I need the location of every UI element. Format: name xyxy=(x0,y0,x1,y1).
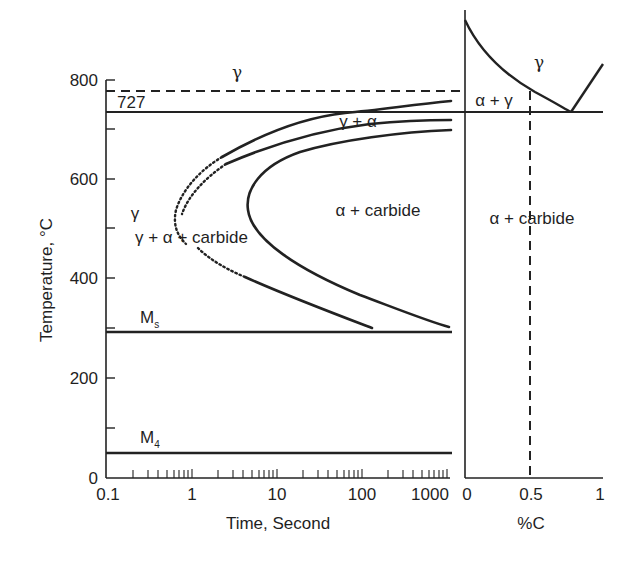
phase-x-tick-0.5: 0.5 xyxy=(519,485,543,504)
x-tick-0.1: 0.1 xyxy=(96,485,120,504)
phase-x-tick-1: 1 xyxy=(595,485,604,504)
label-gamma-top: γ xyxy=(232,62,242,82)
finish-c-curve xyxy=(248,130,451,327)
y-tick-600: 600 xyxy=(70,170,98,189)
ttt-x-axis-title: Time, Second xyxy=(226,514,330,533)
label-ms: Ms xyxy=(140,308,159,330)
ttt-y-axis-title: Temperature, °C xyxy=(37,218,56,342)
phase-diagram: γ α + γ α + carbide 0 0.5 1 %C xyxy=(462,10,604,533)
ttt-plot: 800 600 400 200 0 Temperature, °C xyxy=(37,62,465,533)
x-tick-100: 100 xyxy=(348,485,376,504)
acm-line xyxy=(571,64,603,112)
x-tick-10: 10 xyxy=(268,485,287,504)
label-gamma-left: γ xyxy=(131,204,140,223)
mf-subscript: 4 xyxy=(154,439,160,450)
label-alpha-carbide-ttt: α + carbide xyxy=(336,201,421,220)
label-gamma-alpha-carbide: γ + α + carbide xyxy=(135,228,248,247)
ms-main: M xyxy=(140,308,154,327)
start-curve-dotted-lower xyxy=(198,248,245,277)
label-alpha-gamma: α + γ xyxy=(475,91,513,110)
phase-x-axis-title: %C xyxy=(517,514,544,533)
ms-subscript: s xyxy=(154,319,159,330)
bainite-start-curve xyxy=(245,277,372,328)
ttt-diagram-figure: 800 600 400 200 0 Temperature, °C xyxy=(0,0,636,568)
y-tick-400: 400 xyxy=(70,269,98,288)
x-tick-1000: 1000 xyxy=(411,485,449,504)
y-tick-800: 800 xyxy=(70,71,98,90)
y-tick-200: 200 xyxy=(70,369,98,388)
ttt-x-ticks xyxy=(133,469,447,478)
x-tick-1: 1 xyxy=(187,485,196,504)
phase-x-tick-0: 0 xyxy=(462,485,471,504)
label-alpha-carbide-phase: α + carbide xyxy=(490,209,575,228)
label-gamma-alpha: γ + α xyxy=(339,112,377,131)
label-gamma-phase: γ xyxy=(534,52,544,72)
label-727: 727 xyxy=(117,93,145,112)
label-mf: M4 xyxy=(140,428,160,450)
mf-main: M xyxy=(140,428,154,447)
ttt-y-tick-labels: 800 600 400 200 0 xyxy=(70,71,98,488)
ttt-x-tick-labels: 0.1 1 10 100 1000 xyxy=(96,485,449,504)
ttt-y-ticks xyxy=(106,80,115,428)
